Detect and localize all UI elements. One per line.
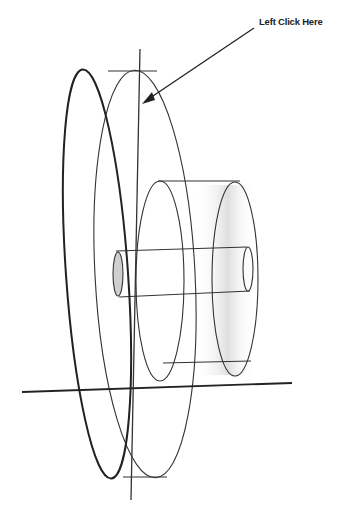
arrow-head-icon: [142, 92, 155, 104]
shaft-front-end[interactable]: [113, 252, 123, 296]
front-disc-edge[interactable]: [52, 67, 142, 480]
callout-label: Left Click Here: [259, 16, 323, 27]
wireframe-diagram: [0, 0, 339, 520]
callout-arrow-line: [147, 28, 254, 100]
hub-front-face[interactable]: [136, 181, 184, 381]
back-disc-edge[interactable]: [84, 68, 205, 481]
horizontal-axis: [22, 383, 292, 392]
hub-shading: [195, 185, 255, 375]
